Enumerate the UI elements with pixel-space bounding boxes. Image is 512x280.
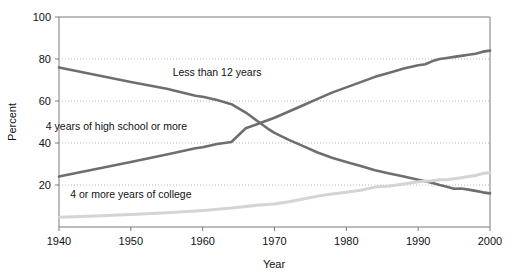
x-tick-label-2000: 2000: [478, 235, 502, 247]
y-tick-label-60: 60: [39, 95, 51, 107]
series-label-2: 4 years of high school or more: [46, 120, 187, 132]
plot-background: [0, 0, 512, 280]
series-label-1: Less than 12 years: [173, 66, 262, 78]
series-label-3: 4 or more years of college: [70, 188, 192, 200]
x-tick-label-1990: 1990: [406, 235, 430, 247]
x-tick-label-1950: 1950: [119, 235, 143, 247]
y-axis-title: Percent: [6, 103, 18, 141]
x-axis-title: Year: [263, 258, 286, 270]
line-chart: 20406080100 1940195019601970198019902000…: [0, 0, 512, 280]
x-tick-label-1970: 1970: [262, 235, 286, 247]
x-tick-label-1940: 1940: [47, 235, 71, 247]
y-tick-label-40: 40: [39, 137, 51, 149]
y-tick-label-20: 20: [39, 179, 51, 191]
chart-figure: 20406080100 1940195019601970198019902000…: [0, 0, 512, 280]
x-tick-label-1960: 1960: [190, 235, 214, 247]
y-tick-label-80: 80: [39, 53, 51, 65]
x-tick-label-1980: 1980: [334, 235, 358, 247]
y-tick-label-100: 100: [33, 11, 51, 23]
